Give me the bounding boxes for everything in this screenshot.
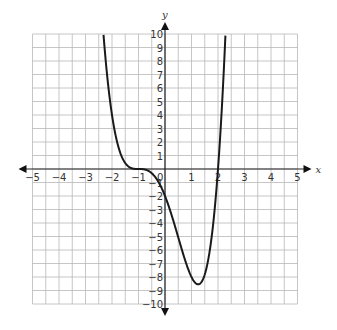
y-tick-label: −10 [142, 299, 163, 310]
y-tick-label: 4 [157, 110, 163, 121]
y-tick-label: −8 [148, 272, 163, 283]
x-tick-label: −2 [105, 172, 120, 183]
y-tick-label: 3 [157, 124, 163, 135]
x-tick-label: −5 [25, 172, 40, 183]
x-axis-label: x [316, 164, 322, 175]
y-tick-label: 10 [150, 29, 163, 40]
y-tick-label: −7 [148, 259, 163, 270]
y-tick-label: −6 [148, 245, 163, 256]
y-tick-label: 9 [157, 43, 163, 54]
x-tick-label: 4 [268, 172, 274, 183]
y-tick-label: −9 [148, 286, 163, 297]
x-tick-label: 1 [188, 172, 194, 183]
x-tick-label: 5 [294, 172, 300, 183]
y-tick-label: 6 [157, 83, 163, 94]
x-tick-label: −4 [52, 172, 67, 183]
y-axis-label: y [161, 9, 168, 20]
y-tick-label: 1 [157, 151, 163, 162]
y-tick-label: −4 [148, 218, 163, 229]
axes [19, 22, 312, 316]
function-graph: −5−4−3−2−1012345−10−9−8−7−6−5−4−3−2−1123… [0, 0, 337, 330]
y-tick-label: 2 [157, 137, 163, 148]
y-tick-label: −3 [148, 205, 163, 216]
y-tick-label: −2 [148, 191, 163, 202]
y-tick-label: −5 [148, 232, 163, 243]
x-tick-label: 3 [241, 172, 247, 183]
x-tick-label: −1 [131, 172, 146, 183]
y-tick-label: 5 [157, 97, 163, 108]
y-tick-label: 7 [157, 70, 163, 81]
x-tick-label: −3 [78, 172, 93, 183]
y-tick-label: 8 [157, 56, 163, 67]
